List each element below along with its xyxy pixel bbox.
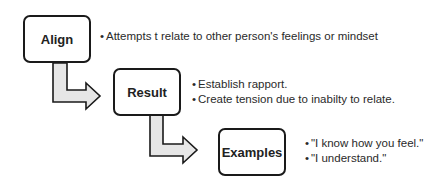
bent-arrow-icon bbox=[53, 63, 100, 109]
step-box-examples: Examples bbox=[218, 128, 286, 176]
bullet-item: •Establish rapport. bbox=[192, 77, 395, 92]
bullet-item: •"I know how you feel." bbox=[305, 136, 423, 151]
step-label: Align bbox=[41, 32, 74, 47]
result-bullets: •Establish rapport. •Create tension due … bbox=[192, 77, 395, 107]
bent-arrow-icon bbox=[150, 115, 197, 163]
examples-bullets: •"I know how you feel." •"I understand." bbox=[305, 136, 423, 166]
step-label: Result bbox=[127, 85, 167, 100]
step-label: Examples bbox=[222, 145, 283, 160]
bullet-item: •Create tension due to inabilty to relat… bbox=[192, 92, 395, 107]
step-box-align: Align bbox=[23, 15, 91, 63]
step-box-result: Result bbox=[113, 68, 181, 116]
bullet-item: •Attempts t relate to other person's fee… bbox=[100, 29, 378, 44]
align-bullets: •Attempts t relate to other person's fee… bbox=[100, 29, 378, 44]
bullet-item: •"I understand." bbox=[305, 151, 423, 166]
